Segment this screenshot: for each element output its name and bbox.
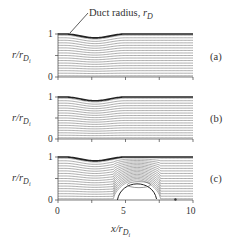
ytick-b-1: 1 xyxy=(48,92,53,102)
ylabel-b: r/rDi xyxy=(12,112,31,127)
figure-labels: Duct radius, rD r/rDi 1 0 (a) r/rDi 1 0 … xyxy=(0,0,238,245)
ytick-a-1: 1 xyxy=(48,29,53,39)
xtick-5: 5 xyxy=(121,206,126,216)
panel-label-c: (c) xyxy=(210,173,222,185)
xtick-10: 10 xyxy=(186,206,196,216)
ytick-c-0: 0 xyxy=(48,195,53,205)
xtick-0: 0 xyxy=(55,206,60,216)
xlabel: x/rDi xyxy=(110,223,130,238)
ylabel-c: r/rDi xyxy=(12,172,31,187)
duct-radius-annotation: Duct radius, rD xyxy=(89,7,153,21)
panel-label-b: (b) xyxy=(210,113,223,125)
ytick-b-0: 0 xyxy=(48,134,53,144)
ylabel-a: r/rDi xyxy=(12,49,31,64)
ytick-c-1: 1 xyxy=(48,152,53,162)
panel-label-a: (a) xyxy=(210,51,222,63)
annotation-leader-line xyxy=(70,13,88,33)
ytick-a-0: 0 xyxy=(48,72,53,82)
